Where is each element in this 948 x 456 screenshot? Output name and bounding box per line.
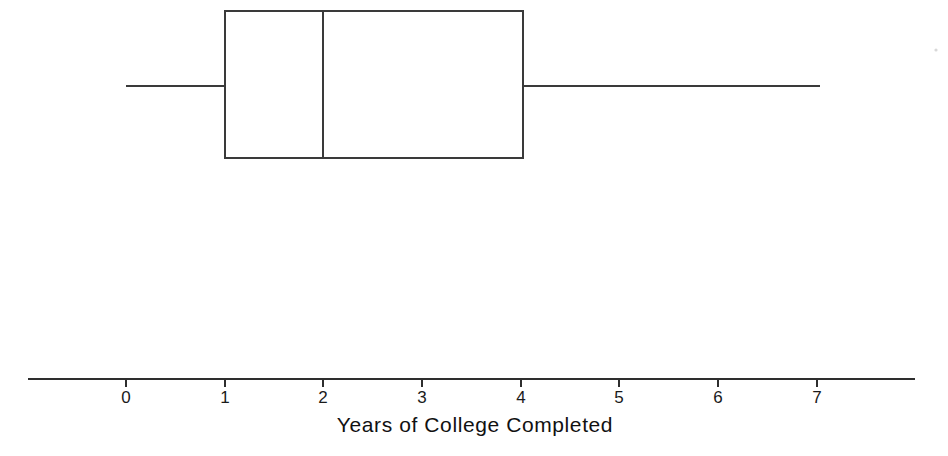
- x-axis-tick-labels: 0 1 2 3 4 5 6 7: [121, 388, 821, 407]
- x-axis-ticks: [126, 379, 817, 387]
- tick-label-0: 0: [121, 388, 130, 407]
- tick-label-1: 1: [220, 388, 229, 407]
- interquartile-box: [225, 11, 523, 158]
- box-plot-figure: 0 1 2 3 4 5 6 7 Years of College Complet…: [0, 0, 948, 456]
- tick-label-7: 7: [812, 388, 821, 407]
- tick-label-4: 4: [516, 388, 525, 407]
- x-axis-title: Years of College Completed: [337, 413, 613, 436]
- scan-speck: [934, 48, 937, 51]
- tick-label-5: 5: [614, 388, 623, 407]
- tick-label-2: 2: [318, 388, 327, 407]
- tick-label-6: 6: [713, 388, 722, 407]
- tick-label-3: 3: [417, 388, 426, 407]
- box-plot-canvas: 0 1 2 3 4 5 6 7 Years of College Complet…: [0, 0, 948, 456]
